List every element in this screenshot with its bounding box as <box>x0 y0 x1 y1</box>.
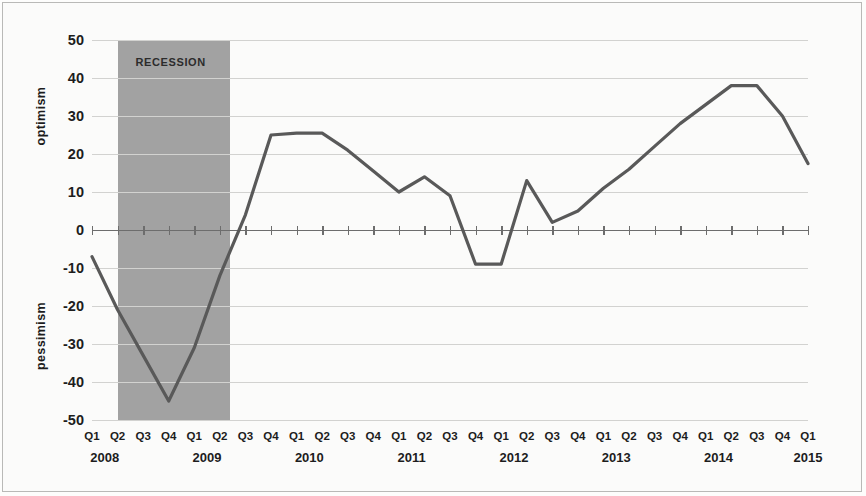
y-axis-tick-label: -50 <box>48 412 84 428</box>
chart-screenshot: RECESSION 50403020100-10-20-30-40-50 opt… <box>0 0 866 496</box>
gridline <box>92 420 808 421</box>
x-axis-quarter-label: Q1 <box>391 430 406 442</box>
y-axis-tick-label: -30 <box>48 336 84 352</box>
x-axis-quarter-label: Q4 <box>468 430 483 442</box>
x-axis-quarter-label: Q2 <box>621 430 636 442</box>
x-axis-year-label: 2014 <box>704 450 733 465</box>
x-axis-year-label: 2013 <box>602 450 631 465</box>
x-axis-quarter-label: Q1 <box>289 430 304 442</box>
x-axis-year-label: 2008 <box>90 450 119 465</box>
x-axis-quarter-label: Q3 <box>340 430 355 442</box>
plot-area: RECESSION <box>92 40 808 420</box>
x-axis-quarter-label: Q2 <box>519 430 534 442</box>
x-axis-quarter-label: Q4 <box>570 430 585 442</box>
x-axis-quarter-label: Q3 <box>749 430 764 442</box>
x-axis-quarter-label: Q3 <box>647 430 662 442</box>
x-axis-year-label: 2012 <box>499 450 528 465</box>
x-axis-quarter-label: Q4 <box>672 430 687 442</box>
x-axis-quarter-label: Q1 <box>493 430 508 442</box>
x-axis-quarter-label: Q1 <box>596 430 611 442</box>
x-axis-quarter-label: Q4 <box>775 430 790 442</box>
x-axis-quarter-label: Q1 <box>800 430 815 442</box>
y-axis-tick-label: 30 <box>48 108 84 124</box>
x-axis-quarter-label: Q2 <box>314 430 329 442</box>
x-axis-quarter-label: Q4 <box>263 430 278 442</box>
x-axis-quarter-label: Q3 <box>238 430 253 442</box>
x-axis-year-label: 2015 <box>794 450 823 465</box>
x-axis-quarter-label: Q1 <box>698 430 713 442</box>
x-axis-year-label: 2011 <box>398 450 426 465</box>
y-axis-tick-label: 10 <box>48 184 84 200</box>
x-axis-tick <box>808 226 809 235</box>
x-axis-quarter-label: Q2 <box>212 430 227 442</box>
y-axis-tick-label: 50 <box>48 32 84 48</box>
x-axis-year-label: 2009 <box>193 450 222 465</box>
x-axis-quarter-label: Q2 <box>417 430 432 442</box>
y-axis-title-pessimism: pessimism <box>34 293 48 379</box>
x-axis-quarter-label: Q2 <box>724 430 739 442</box>
y-axis-tick-label: -40 <box>48 374 84 390</box>
y-axis-tick-label: 40 <box>48 70 84 86</box>
y-axis-tick-label: -10 <box>48 260 84 276</box>
y-axis-tick-label: 0 <box>48 222 84 238</box>
x-axis-quarter-label: Q4 <box>366 430 381 442</box>
y-axis-title-optimism: optimism <box>34 73 48 159</box>
x-axis-quarter-label: Q1 <box>84 430 99 442</box>
y-axis-tick-label: -20 <box>48 298 84 314</box>
series-line <box>92 40 808 420</box>
x-axis-quarter-label: Q1 <box>187 430 202 442</box>
y-axis-tick-label: 20 <box>48 146 84 162</box>
x-axis-quarter-label: Q3 <box>442 430 457 442</box>
x-axis-quarter-label: Q4 <box>161 430 176 442</box>
x-axis-quarter-label: Q3 <box>135 430 150 442</box>
x-axis-quarter-label: Q2 <box>110 430 125 442</box>
optimism-index-line <box>92 86 808 401</box>
x-axis-quarter-label: Q3 <box>545 430 560 442</box>
x-axis-year-label: 2010 <box>295 450 324 465</box>
